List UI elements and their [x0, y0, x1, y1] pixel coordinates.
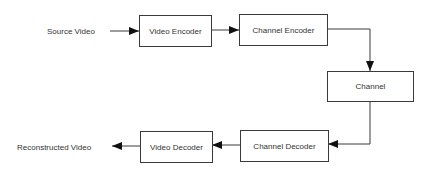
- channel-box: Channel: [327, 71, 414, 102]
- source-video-label: Source Video: [47, 27, 95, 36]
- channel-decoder-label: Channel Decoder: [253, 142, 315, 151]
- arrow-channel-to-channel-decoder: [328, 101, 370, 144]
- channel-label: Channel: [356, 82, 386, 91]
- arrow-channel-encoder-to-channel: [327, 29, 370, 71]
- channel-decoder-box: Channel Decoder: [240, 130, 329, 162]
- video-encoder-label: Video Encoder: [149, 27, 201, 36]
- channel-encoder-box: Channel Encoder: [239, 14, 328, 46]
- video-transmission-diagram: Source Video Video Encoder Channel Encod…: [0, 0, 429, 173]
- channel-encoder-label: Channel Encoder: [253, 26, 315, 35]
- video-decoder-label: Video Decoder: [150, 143, 203, 152]
- reconstructed-video-label: Reconstructed Video: [17, 143, 91, 152]
- video-decoder-box: Video Decoder: [140, 131, 213, 163]
- video-encoder-box: Video Encoder: [139, 15, 212, 47]
